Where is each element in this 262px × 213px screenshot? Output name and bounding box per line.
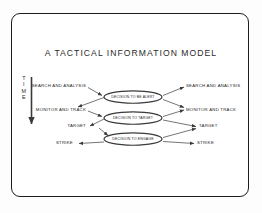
line-alert-to-right-search [163,87,184,96]
right-label-strike: STRIKE [197,140,214,145]
right-label-monitor-and-track: MONITOR AND TRACK [186,107,236,112]
left-label-target: TARGET [67,123,86,128]
line-target-to-right-target [163,120,196,127]
left-label-search-and-analysis: SEARCH AND ANALYSIS [32,83,86,88]
right-label-target: TARGET [199,123,218,128]
line-left-search-to-alert [88,88,102,96]
line-left-target-to-engage [99,128,108,136]
line-left-monitor-to-target [88,111,102,117]
line-engage-to-right-strike [163,142,194,144]
line-target-to-left-target [90,119,104,126]
node-label-target: DECISION TO TARGET [113,116,153,120]
node-label-alert: DECISION TO BE ALERT [111,95,154,99]
node-label-engage: DECISION TO ENGAGE [112,137,153,141]
diagram-screenshot: A TACTICAL INFORMATION MODEL T I M E [0,0,262,213]
line-engage-to-left-strike [79,142,104,144]
left-label-strike: STRIKE [56,140,73,145]
line-engage-to-right-target [163,129,196,138]
line-alert-to-left-monitor [78,98,104,108]
left-label-monitor-and-track: MONITOR AND TRACK [36,107,86,112]
line-target-to-right-monitor [163,110,184,117]
line-alert-to-right-monitor [163,100,184,108]
right-label-search-and-analysis: SEARCH AND ANALYSIS [186,83,240,88]
